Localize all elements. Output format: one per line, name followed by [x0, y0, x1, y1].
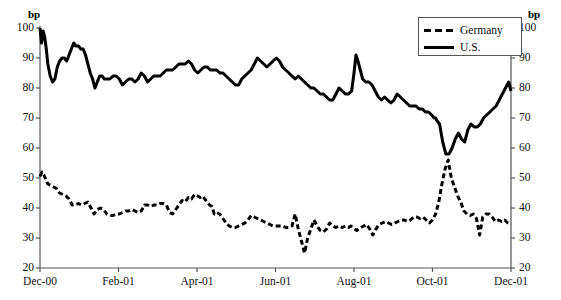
legend-solid-line-icon — [424, 42, 454, 52]
y-tick-label-left: 60 — [6, 141, 34, 153]
y-tick-label-right: 50 — [519, 171, 531, 183]
y-tick-label-left: 70 — [6, 111, 34, 123]
legend: Germany U.S. — [418, 17, 522, 56]
x-tick-label: Jun-01 — [260, 275, 291, 287]
x-tick-label: Oct-01 — [417, 275, 449, 287]
y-tick-label-right: 60 — [519, 141, 531, 153]
x-tick-label: Aug-01 — [336, 275, 371, 287]
x-tick-label: Dec-00 — [23, 275, 57, 287]
legend-label-us: U.S. — [460, 41, 480, 53]
y-tick-label-left: 20 — [6, 261, 34, 273]
y-tick-label-right: 80 — [519, 81, 531, 93]
y-tick-label-left: 100 — [6, 21, 34, 33]
series-line-germany — [40, 160, 511, 253]
x-tick-label: Feb-01 — [102, 275, 135, 287]
x-tick-label: Apr-01 — [181, 275, 214, 287]
y-tick-label-right: 40 — [519, 201, 531, 213]
y-tick-label-right: 20 — [519, 261, 531, 273]
legend-item-germany: Germany — [424, 21, 516, 38]
y-tick-label-right: 30 — [519, 231, 531, 243]
y-tick-label-left: 50 — [6, 171, 34, 183]
chart-container: bp bp 2020303040405050606070708080909010… — [0, 0, 561, 300]
y-tick-label-left: 90 — [6, 51, 34, 63]
y-tick-label-left: 30 — [6, 231, 34, 243]
x-tick-label: Dec-01 — [494, 275, 528, 287]
y-tick-label-left: 40 — [6, 201, 34, 213]
legend-dashed-line-icon — [424, 25, 454, 35]
y-tick-label-left: 80 — [6, 81, 34, 93]
legend-item-us: U.S. — [424, 38, 516, 55]
y-tick-label-right: 70 — [519, 111, 531, 123]
legend-label-germany: Germany — [460, 24, 503, 36]
